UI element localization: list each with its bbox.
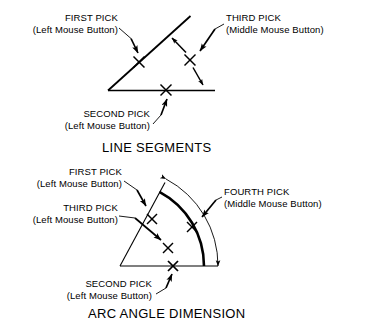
arc-angle-geometry <box>120 179 218 271</box>
caption-arc-angle-dimension: ARC ANGLE DIMENSION <box>88 306 245 321</box>
leader-arrow-first-pick <box>131 39 138 54</box>
diagonal-segment <box>108 16 191 91</box>
label-first-pick-arc: FIRST PICK (Left Mouse Button) <box>8 166 122 189</box>
arc-pick-marker-first <box>147 214 157 224</box>
label-second-pick-top: SECOND PICK (Left Mouse Button) <box>32 108 150 131</box>
arc-leader-arrow-third-pick <box>135 218 161 240</box>
arc-leader-third-pick <box>119 216 135 218</box>
label-subtitle: (Middle Mouse Button) <box>224 198 322 210</box>
object-arc <box>159 192 204 266</box>
pick-marker-third <box>185 55 196 66</box>
label-title: SECOND PICK <box>32 108 150 120</box>
arc-leader-first-pick <box>124 181 137 190</box>
line-segments-geometry <box>108 16 215 96</box>
label-subtitle: (Left Mouse Button) <box>34 290 152 302</box>
arc-leader-arrow-second-pick <box>166 274 172 288</box>
label-third-pick-top: THIRD PICK (Middle Mouse Button) <box>226 12 324 35</box>
third-pick-arrow-up <box>172 38 186 53</box>
label-title: FIRST PICK <box>8 166 122 178</box>
arc-pick-marker-third <box>163 243 173 253</box>
arc-leader-arrow-first-pick <box>137 190 146 206</box>
label-title: SECOND PICK <box>34 278 152 290</box>
arc-leader-second-pick <box>156 288 166 294</box>
leader-first-pick <box>119 28 131 39</box>
label-title: THIRD PICK <box>226 12 324 24</box>
label-third-pick-arc: THIRD PICK (Left Mouse Button) <box>4 202 118 225</box>
leader-arrow-second-pick <box>161 99 167 115</box>
label-title: FOURTH PICK <box>224 186 322 198</box>
label-subtitle: (Left Mouse Button) <box>4 214 118 226</box>
label-fourth-pick-arc: FOURTH PICK (Middle Mouse Button) <box>224 186 322 209</box>
leader-arrow-third-pick <box>200 29 215 51</box>
label-subtitle: (Left Mouse Button) <box>8 178 122 190</box>
arc-leader-arrow-fourth-pick <box>202 200 216 217</box>
label-second-pick-arc: SECOND PICK (Left Mouse Button) <box>34 278 152 301</box>
label-subtitle: (Left Mouse Button) <box>32 120 150 132</box>
caption-line-segments: LINE SEGMENTS <box>102 140 211 155</box>
label-subtitle: (Left Mouse Button) <box>8 24 118 36</box>
third-pick-arrow-down <box>193 68 203 86</box>
leader-second-pick <box>153 115 161 124</box>
leader-third-pick <box>215 24 224 29</box>
arc-leader-fourth-pick <box>216 197 222 200</box>
label-title: FIRST PICK <box>8 12 118 24</box>
label-title: THIRD PICK <box>4 202 118 214</box>
diagram-page: FIRST PICK (Left Mouse Button) THIRD PIC… <box>0 0 368 329</box>
label-subtitle: (Middle Mouse Button) <box>226 24 324 36</box>
pick-marker-first <box>134 57 145 68</box>
label-first-pick-top: FIRST PICK (Left Mouse Button) <box>8 12 118 35</box>
